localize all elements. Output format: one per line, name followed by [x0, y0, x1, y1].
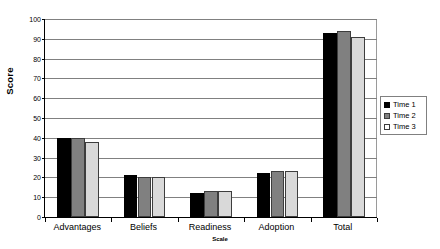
y-tick-mark: [42, 39, 45, 40]
bar-beliefs-time-3: [152, 177, 166, 217]
y-tick-label: 70: [19, 75, 41, 82]
bar-readiness-time-1: [190, 193, 204, 217]
x-axis-label-readiness: Readiness: [177, 222, 243, 233]
y-tick-label: 50: [19, 115, 41, 122]
bar-beliefs-time-1: [124, 175, 138, 217]
plot-area: 0102030405060708090100: [44, 19, 377, 218]
y-tick-label: 40: [19, 134, 41, 141]
chart-legend: Time 1Time 2Time 3: [380, 96, 427, 135]
y-tick-mark: [42, 197, 45, 198]
legend-swatch-icon: [384, 102, 390, 108]
y-tick-mark: [42, 177, 45, 178]
y-tick-mark: [42, 118, 45, 119]
bar-readiness-time-3: [218, 191, 232, 217]
x-tick-mark: [377, 218, 378, 222]
y-tick-mark: [42, 19, 45, 20]
bar-advantages-time-3: [85, 142, 99, 217]
legend-swatch-icon: [384, 113, 390, 119]
x-axis-label-advantages: Advantages: [44, 222, 110, 233]
bar-advantages-time-2: [71, 138, 85, 217]
legend-item-time-2: Time 2: [384, 110, 424, 121]
legend-swatch-icon: [384, 124, 390, 130]
x-axis-label-total: Total: [310, 222, 376, 233]
bar-adoption-time-1: [257, 173, 271, 217]
bar-adoption-time-2: [271, 171, 285, 217]
bar-advantages-time-1: [57, 138, 71, 217]
y-tick-mark: [42, 158, 45, 159]
y-axis-title: Score: [2, 51, 18, 111]
bar-total-time-1: [323, 33, 337, 217]
y-tick-label: 80: [19, 55, 41, 62]
y-tick-label: 10: [19, 194, 41, 201]
y-tick-label: 30: [19, 154, 41, 161]
y-tick-mark: [42, 78, 45, 79]
y-tick-label: 60: [19, 95, 41, 102]
legend-label: Time 3: [393, 121, 416, 132]
y-tick-label: 20: [19, 174, 41, 181]
y-tick-label: 0: [19, 214, 41, 221]
x-axis-label-beliefs: Beliefs: [110, 222, 176, 233]
bar-adoption-time-3: [285, 171, 299, 217]
x-axis-label-adoption: Adoption: [243, 222, 309, 233]
y-tick-label: 90: [19, 35, 41, 42]
bar-readiness-time-2: [204, 191, 218, 217]
bar-total-time-2: [337, 31, 351, 217]
bar-chart: Score 0102030405060708090100 AdvantagesB…: [0, 0, 440, 249]
y-tick-mark: [42, 59, 45, 60]
bar-beliefs-time-2: [138, 177, 152, 217]
y-tick-label: 100: [19, 16, 41, 23]
gridline: [45, 19, 377, 20]
y-tick-mark: [42, 98, 45, 99]
bar-total-time-3: [351, 37, 365, 217]
legend-item-time-3: Time 3: [384, 121, 424, 132]
y-tick-mark: [42, 138, 45, 139]
legend-item-time-1: Time 1: [384, 99, 424, 110]
legend-label: Time 1: [393, 99, 416, 110]
legend-label: Time 2: [393, 110, 416, 121]
x-axis-title: Scale: [0, 235, 440, 243]
